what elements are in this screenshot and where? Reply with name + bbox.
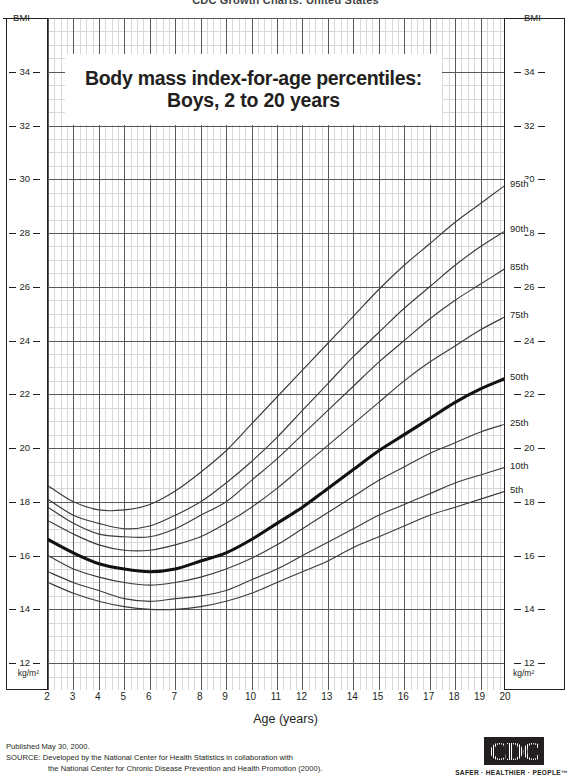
- percentile-label-5th: 5th: [508, 485, 524, 495]
- percentile-label-90th: 90th: [508, 224, 530, 234]
- bmi-growth-chart-page: CDC Growth Charts: United States Body ma…: [0, 0, 571, 780]
- percentile-label-25th: 25th: [508, 418, 530, 428]
- percentile-label-50th: 50th: [508, 372, 530, 382]
- percentile-label-95th: 95th: [508, 179, 530, 189]
- percentile-label-10th: 10th: [508, 461, 530, 471]
- percentile-label-75th: 75th: [508, 310, 530, 320]
- percentile-label-85th: 85th: [508, 262, 530, 272]
- percentile-label-layer: 95th90th85th75th50th25th10th5th: [0, 0, 571, 780]
